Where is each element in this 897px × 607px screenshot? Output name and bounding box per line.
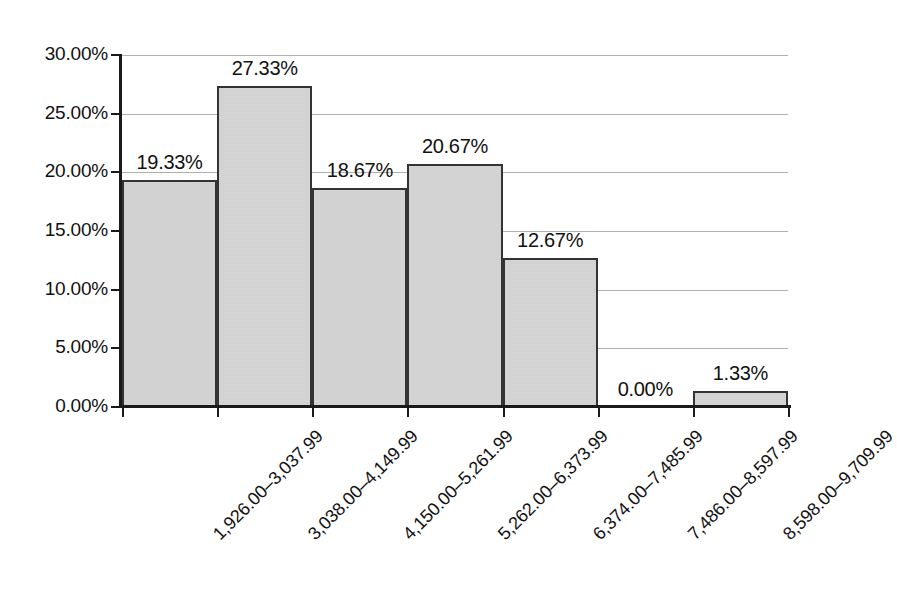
bars-layer (122, 55, 788, 407)
y-axis-tick-label: 10.00% (45, 278, 108, 300)
bar-value-label: 18.67% (312, 159, 407, 182)
bar (503, 258, 598, 407)
y-axis-tick-label: 5.00% (55, 336, 108, 358)
x-axis-tick (693, 406, 695, 417)
bar-value-label: 27.33% (217, 57, 312, 80)
x-axis-tick (598, 406, 600, 417)
bar (407, 164, 502, 407)
x-axis-line (119, 405, 791, 408)
bar-value-label: 12.67% (503, 229, 598, 252)
bar (122, 180, 217, 407)
x-axis-tick (312, 406, 314, 417)
bar-value-label: 1.33% (693, 362, 788, 385)
y-axis-line (119, 54, 122, 408)
bar-value-label: 19.33% (122, 151, 217, 174)
x-axis-tick (407, 406, 409, 417)
y-axis-tick-label: 15.00% (45, 219, 108, 241)
x-axis-tick (788, 406, 790, 417)
x-axis-tick (503, 406, 505, 417)
bar-value-label: 20.67% (407, 135, 502, 158)
bar (217, 86, 312, 407)
y-axis-tick-label: 20.00% (45, 160, 108, 182)
x-axis-tick (217, 406, 219, 417)
y-axis-tick-label: 0.00% (55, 395, 108, 417)
bar-value-label: 0.00% (598, 378, 693, 401)
y-axis-tick-label: 25.00% (45, 102, 108, 124)
y-axis-tick-label: 30.00% (45, 43, 108, 65)
bar (312, 188, 407, 407)
x-axis-tick (122, 406, 124, 417)
